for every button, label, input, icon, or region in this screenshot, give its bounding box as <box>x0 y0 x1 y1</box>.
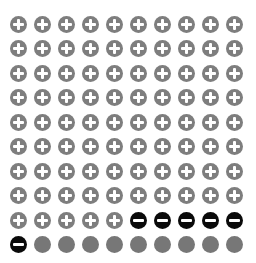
plus-circle-icon <box>226 138 243 155</box>
plus-circle-icon <box>34 163 51 180</box>
waffle-cell <box>198 110 222 135</box>
waffle-cell <box>78 110 102 135</box>
plus-circle-icon <box>178 40 195 57</box>
waffle-cell <box>6 184 30 209</box>
waffle-cell <box>126 86 150 111</box>
plus-circle-icon <box>34 65 51 82</box>
waffle-cell <box>174 159 198 184</box>
plus-circle-icon <box>202 89 219 106</box>
plus-circle-icon <box>58 114 75 131</box>
waffle-cell <box>78 184 102 209</box>
plus-circle-icon <box>178 16 195 33</box>
waffle-cell <box>126 135 150 160</box>
plus-circle-icon <box>154 114 171 131</box>
filled-circle-icon <box>178 236 195 253</box>
waffle-cell <box>150 159 174 184</box>
waffle-cell <box>222 159 246 184</box>
plus-circle-icon <box>82 114 99 131</box>
plus-circle-icon <box>82 89 99 106</box>
plus-circle-icon <box>178 187 195 204</box>
waffle-cell <box>30 159 54 184</box>
minus-circle-icon <box>154 212 171 229</box>
filled-circle-icon <box>82 236 99 253</box>
plus-circle-icon <box>154 138 171 155</box>
waffle-cell <box>174 184 198 209</box>
waffle-cell <box>102 61 126 86</box>
waffle-cell <box>150 135 174 160</box>
waffle-cell <box>222 184 246 209</box>
plus-circle-icon <box>106 16 123 33</box>
plus-circle-icon <box>82 187 99 204</box>
filled-circle-icon <box>106 236 123 253</box>
plus-circle-icon <box>202 187 219 204</box>
plus-circle-icon <box>82 65 99 82</box>
waffle-cell <box>174 135 198 160</box>
waffle-cell <box>102 110 126 135</box>
waffle-cell <box>150 86 174 111</box>
plus-circle-icon <box>10 212 27 229</box>
waffle-cell <box>54 208 78 233</box>
plus-circle-icon <box>106 114 123 131</box>
plus-circle-icon <box>34 138 51 155</box>
waffle-cell <box>198 233 222 258</box>
plus-circle-icon <box>10 138 27 155</box>
waffle-cell <box>6 12 30 37</box>
plus-circle-icon <box>130 89 147 106</box>
waffle-cell <box>150 184 174 209</box>
waffle-cell <box>222 233 246 258</box>
plus-circle-icon <box>34 212 51 229</box>
plus-circle-icon <box>106 40 123 57</box>
waffle-cell <box>78 159 102 184</box>
waffle-cell <box>126 233 150 258</box>
waffle-cell <box>198 86 222 111</box>
waffle-cell <box>30 110 54 135</box>
waffle-cell <box>222 135 246 160</box>
plus-circle-icon <box>58 89 75 106</box>
waffle-cell <box>30 86 54 111</box>
plus-circle-icon <box>178 89 195 106</box>
plus-circle-icon <box>10 187 27 204</box>
waffle-cell <box>6 37 30 62</box>
plus-circle-icon <box>10 40 27 57</box>
plus-circle-icon <box>34 40 51 57</box>
plus-circle-icon <box>130 16 147 33</box>
waffle-cell <box>54 233 78 258</box>
plus-circle-icon <box>154 187 171 204</box>
plus-circle-icon <box>82 16 99 33</box>
minus-circle-icon <box>202 212 219 229</box>
plus-circle-icon <box>202 40 219 57</box>
waffle-cell <box>54 184 78 209</box>
plus-circle-icon <box>154 89 171 106</box>
waffle-cell <box>126 184 150 209</box>
waffle-cell <box>222 61 246 86</box>
plus-circle-icon <box>202 163 219 180</box>
waffle-cell <box>6 208 30 233</box>
waffle-cell <box>78 37 102 62</box>
plus-circle-icon <box>34 89 51 106</box>
waffle-cell <box>198 208 222 233</box>
plus-circle-icon <box>226 114 243 131</box>
plus-circle-icon <box>154 40 171 57</box>
waffle-cell <box>174 208 198 233</box>
waffle-cell <box>78 86 102 111</box>
waffle-cell <box>222 110 246 135</box>
waffle-cell <box>78 135 102 160</box>
waffle-cell <box>6 86 30 111</box>
minus-circle-icon <box>226 212 243 229</box>
waffle-cell <box>150 37 174 62</box>
waffle-cell <box>102 184 126 209</box>
waffle-cell <box>102 135 126 160</box>
plus-circle-icon <box>34 187 51 204</box>
plus-circle-icon <box>226 65 243 82</box>
minus-circle-icon <box>130 212 147 229</box>
plus-circle-icon <box>202 138 219 155</box>
waffle-cell <box>174 37 198 62</box>
waffle-cell <box>198 37 222 62</box>
waffle-cell <box>126 110 150 135</box>
plus-circle-icon <box>106 187 123 204</box>
filled-circle-icon <box>58 236 75 253</box>
waffle-cell <box>54 86 78 111</box>
waffle-cell <box>126 12 150 37</box>
waffle-cell <box>174 61 198 86</box>
plus-circle-icon <box>226 40 243 57</box>
